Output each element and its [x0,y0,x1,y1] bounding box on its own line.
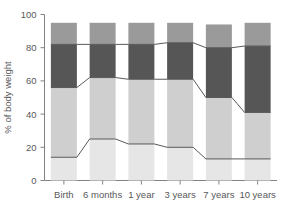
y-tick-label-100: 100 [21,9,37,20]
bar-group-1 [90,23,116,181]
bar-segment-3-cat-1 [90,23,116,45]
bar-segment-0-cat-3 [167,147,193,180]
connector-line-3 [51,43,271,48]
bar-segment-1-cat-0 [51,88,77,158]
y-tick-label-0: 0 [31,175,36,186]
y-tick-label-40: 40 [26,109,37,120]
bar-group-3 [167,23,193,181]
connector-line-1 [51,139,271,159]
bar-segment-0-cat-4 [206,159,232,181]
bar-segment-3-cat-4 [206,24,232,47]
bar-segment-2-cat-5 [245,46,271,112]
y-tick-label-60: 60 [26,75,37,86]
stacked-bar-chart: 020406080100% of body weightBirth6 month… [0,0,283,222]
x-tick-label-4: 7 years [203,189,234,200]
bar-segment-2-cat-4 [206,48,232,98]
bar-segment-1-cat-1 [90,78,116,139]
bar-segment-0-cat-5 [245,159,271,181]
bar-group-2 [128,23,154,181]
bar-segment-3-cat-2 [128,23,154,45]
bar-segment-0-cat-2 [128,144,154,181]
bar-segment-1-cat-4 [206,98,232,159]
bar-segment-3-cat-3 [167,23,193,43]
bar-segment-3-cat-5 [245,23,271,46]
bar-segment-0-cat-1 [90,139,116,181]
bar-segment-2-cat-1 [90,44,116,77]
bar-segment-1-cat-3 [167,79,193,147]
x-tick-label-1: 6 months [83,189,122,200]
x-tick-label-2: 1 year [128,189,154,200]
connector-line-2 [51,78,271,113]
bar-segment-2-cat-3 [167,43,193,80]
bar-segment-1-cat-5 [245,112,271,158]
x-tick-label-5: 10 years [239,189,276,200]
chart-canvas: 020406080100% of body weightBirth6 month… [0,0,283,222]
bar-segment-2-cat-0 [51,44,77,87]
bar-segment-2-cat-2 [128,44,154,79]
y-tick-label-20: 20 [26,142,37,153]
y-axis-title: % of body weight [2,61,13,134]
x-tick-label-3: 3 years [165,189,196,200]
x-tick-label-0: Birth [54,189,74,200]
bar-segment-1-cat-2 [128,79,154,144]
bar-segment-3-cat-0 [51,23,77,45]
bar-segment-0-cat-0 [51,157,77,180]
y-tick-label-80: 80 [26,42,37,53]
